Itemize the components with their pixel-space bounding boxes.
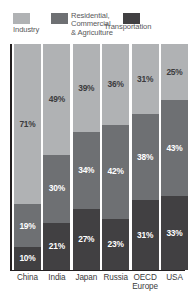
x-axis-line	[10, 270, 185, 271]
legend-swatch-industry	[13, 13, 30, 24]
bar-segment-value: 34%	[78, 166, 94, 174]
bar-segment: 30%	[43, 155, 70, 223]
bar-segment: 49%	[43, 44, 70, 155]
bar-oecd-europe: 31%38%31%	[132, 44, 159, 270]
bar-segment: 33%	[161, 196, 188, 270]
bar-segment: 71%	[14, 44, 41, 204]
bar-segment: 10%	[14, 247, 41, 270]
bar-segment-value: 21%	[49, 242, 65, 250]
bar-segment: 34%	[73, 132, 100, 209]
bar-segment: 21%	[43, 223, 70, 270]
bar-segment: 31%	[132, 44, 159, 114]
legend-swatch-residential	[51, 13, 68, 24]
bar-segment-value: 31%	[137, 75, 153, 83]
bar-russia: 36%42%23%	[102, 44, 129, 270]
bar-segment-value: 36%	[108, 80, 124, 88]
bar-segment: 38%	[132, 114, 159, 200]
bar-group: 71%19%10%49%30%21%39%34%27%36%42%23%31%3…	[0, 44, 189, 270]
bar-segment-value: 10%	[19, 254, 35, 262]
bar-segment: 43%	[161, 100, 188, 196]
legend-swatch-transportation	[123, 13, 140, 24]
bar-segment-value: 31%	[137, 231, 153, 239]
bar-segment-value: 30%	[49, 184, 65, 192]
bar-segment-value: 23%	[108, 240, 124, 248]
legend-item-industry: Industry	[13, 12, 39, 34]
plot-area: 71%19%10%49%30%21%39%34%27%36%42%23%31%3…	[0, 44, 189, 272]
bar-segment-value: 38%	[137, 153, 153, 161]
bar-segment: 25%	[161, 44, 188, 100]
x-axis-labels: ChinaIndiaJapanRussiaOECD EuropeUSA	[0, 273, 189, 298]
bar-segment: 27%	[73, 209, 100, 270]
bar-segment-value: 39%	[78, 84, 94, 92]
bar-usa: 25%43%33%	[161, 44, 188, 270]
bar-segment-value: 19%	[19, 222, 35, 230]
bar-segment-value: 27%	[78, 235, 94, 243]
bar-segment-value: 42%	[108, 167, 124, 175]
bar-segment: 19%	[14, 204, 41, 247]
legend-item-transportation: Transportation	[123, 12, 151, 31]
bar-segment-value: 25%	[166, 68, 182, 76]
legend-label-transportation: Transportation	[104, 23, 151, 31]
bar-india: 49%30%21%	[43, 44, 70, 270]
bar-segment-value: 43%	[166, 144, 182, 152]
bar-segment-value: 33%	[166, 229, 182, 237]
bar-segment: 31%	[132, 200, 159, 270]
stacked-bar-chart: Industry Residential, Commercial & Agric…	[0, 0, 189, 298]
chart-legend: Industry Residential, Commercial & Agric…	[0, 8, 189, 42]
bar-segment: 23%	[102, 219, 129, 270]
bar-china: 71%19%10%	[14, 44, 41, 270]
bar-japan: 39%34%27%	[73, 44, 100, 270]
bar-segment: 36%	[102, 44, 129, 125]
bar-segment-value: 71%	[19, 120, 35, 128]
bar-segment: 42%	[102, 125, 129, 219]
bar-segment: 39%	[73, 44, 100, 132]
legend-label-industry: Industry	[13, 26, 39, 34]
bar-segment-value: 49%	[49, 95, 65, 103]
x-axis-label-usa: USA	[158, 273, 190, 282]
